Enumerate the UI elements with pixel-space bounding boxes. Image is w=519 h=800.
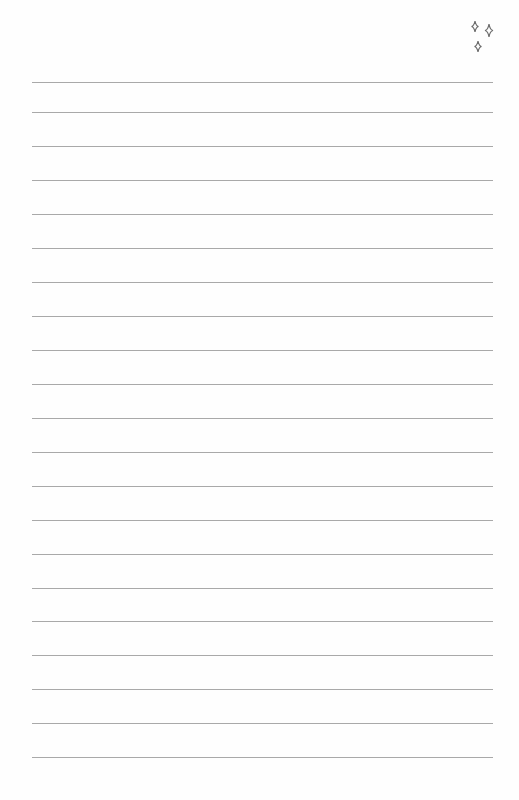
ruled-line — [32, 214, 493, 215]
ruled-line — [32, 757, 493, 758]
ruled-line — [32, 655, 493, 656]
sparkles-icon — [468, 18, 498, 58]
ruled-line — [32, 146, 493, 147]
ruled-line — [32, 588, 493, 589]
ruled-line — [32, 621, 493, 622]
ruled-line — [32, 82, 493, 83]
ruled-line — [32, 723, 493, 724]
notebook-page — [0, 0, 519, 800]
ruled-line — [32, 112, 493, 113]
ruled-line — [32, 350, 493, 351]
ruled-line — [32, 180, 493, 181]
ruled-line — [32, 418, 493, 419]
ruled-line — [32, 486, 493, 487]
ruled-line — [32, 520, 493, 521]
ruled-line — [32, 384, 493, 385]
ruled-line — [32, 554, 493, 555]
ruled-line — [32, 689, 493, 690]
ruled-line — [32, 248, 493, 249]
ruled-line — [32, 452, 493, 453]
ruled-line — [32, 316, 493, 317]
ruled-line — [32, 282, 493, 283]
